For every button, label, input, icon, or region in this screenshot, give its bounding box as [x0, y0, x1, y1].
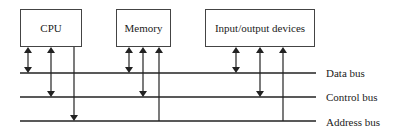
- data-bus-label: Data bus: [326, 67, 365, 79]
- io-devices-label: Input/output devices: [215, 22, 305, 34]
- io-devices-box: Input/output devices: [205, 9, 315, 47]
- memory-label: Memory: [125, 22, 163, 34]
- address-bus-label: Address bus: [326, 116, 380, 128]
- control-bus-label: Control bus: [326, 91, 378, 103]
- cpu-label: CPU: [40, 22, 61, 34]
- cpu-box: CPU: [20, 9, 82, 47]
- memory-box: Memory: [116, 9, 171, 47]
